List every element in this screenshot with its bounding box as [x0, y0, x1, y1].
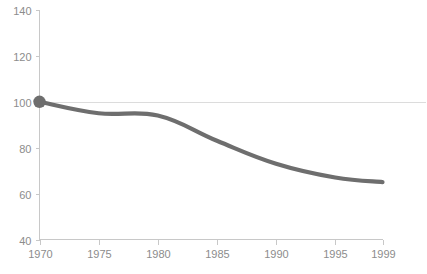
x-tick-label-1970: 1970 [28, 248, 52, 260]
x-tick-label-1995: 1995 [323, 248, 347, 260]
x-tick-label-1975: 1975 [87, 248, 111, 260]
y-tick-label-120: 120 [13, 51, 31, 63]
y-tick-label-80: 80 [19, 143, 31, 155]
x-tick-label-1990: 1990 [264, 248, 288, 260]
chart-background [0, 0, 427, 274]
chart-canvas: 406080100120140 197019751980198519901995… [0, 0, 427, 274]
y-tick-label-140: 140 [13, 5, 31, 17]
y-tick-label-60: 60 [19, 189, 31, 201]
x-tick-label-1980: 1980 [146, 248, 170, 260]
y-tick-label-100: 100 [13, 97, 31, 109]
data-point-marker-group [33, 96, 45, 108]
x-tick-label-1985: 1985 [205, 248, 229, 260]
x-tick-label-1999: 1999 [371, 248, 395, 260]
data-point-marker-1970 [33, 96, 45, 108]
line-chart: 406080100120140 197019751980198519901995… [0, 0, 427, 274]
y-tick-label-40: 40 [19, 235, 31, 247]
